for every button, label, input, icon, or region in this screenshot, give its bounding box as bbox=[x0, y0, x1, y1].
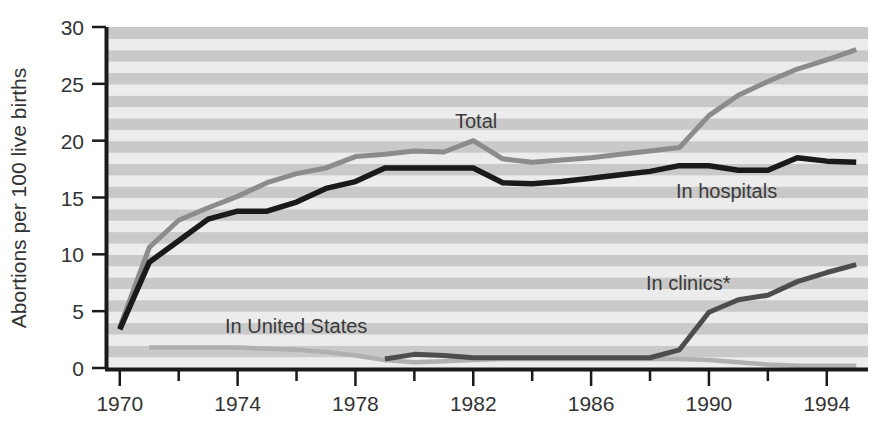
x-axis-tick-label: 1990 bbox=[686, 392, 733, 415]
y-axis-tick-label: 0 bbox=[72, 357, 84, 380]
plot-band bbox=[108, 232, 868, 244]
x-axis-tick-label: 1970 bbox=[96, 392, 143, 415]
series-label-in-hospitals: In hospitals bbox=[676, 180, 777, 202]
x-axis-tick-label: 1986 bbox=[568, 392, 615, 415]
plot-band bbox=[108, 243, 868, 255]
x-axis-tick-label: 1982 bbox=[450, 392, 497, 415]
y-axis-tick-label: 30 bbox=[61, 16, 84, 39]
series-label-in-united-states: In United States bbox=[225, 315, 367, 337]
plot-band bbox=[108, 61, 868, 73]
y-axis-title: Abortions per 100 live births bbox=[7, 68, 30, 328]
y-axis-tick-label: 25 bbox=[61, 73, 84, 96]
plot-band bbox=[108, 38, 868, 50]
plot-band bbox=[108, 311, 868, 323]
plot-band bbox=[108, 152, 868, 164]
x-axis-tick-label: 1978 bbox=[332, 392, 379, 415]
plot-band bbox=[108, 254, 868, 266]
plot-band bbox=[108, 27, 868, 39]
y-axis-tick-label: 20 bbox=[61, 130, 84, 153]
plot-band bbox=[108, 50, 868, 62]
y-axis-ticks: 051015202530 bbox=[61, 16, 106, 380]
plot-band bbox=[108, 300, 868, 312]
plot-band bbox=[108, 334, 868, 346]
plot-band bbox=[108, 95, 868, 107]
x-axis-tick-label: 1974 bbox=[214, 392, 261, 415]
series-label-in-clinics: In clinics* bbox=[646, 272, 731, 294]
plot-band bbox=[108, 220, 868, 232]
x-axis-tick-label: 1994 bbox=[803, 392, 850, 415]
y-axis-tick-label: 10 bbox=[61, 243, 84, 266]
y-axis-tick-label: 15 bbox=[61, 187, 84, 210]
plot-band bbox=[108, 323, 868, 335]
chart-container: 051015202530 197019741978198219861990199… bbox=[0, 0, 880, 424]
plot-band bbox=[108, 277, 868, 289]
series-label-total: Total bbox=[455, 110, 497, 132]
y-axis-tick-label: 5 bbox=[72, 300, 84, 323]
plot-band bbox=[108, 266, 868, 278]
x-axis-ticks: 1970197419781982198619901994 bbox=[96, 370, 850, 415]
plot-band bbox=[108, 72, 868, 84]
line-chart: 051015202530 197019741978198219861990199… bbox=[0, 0, 880, 424]
